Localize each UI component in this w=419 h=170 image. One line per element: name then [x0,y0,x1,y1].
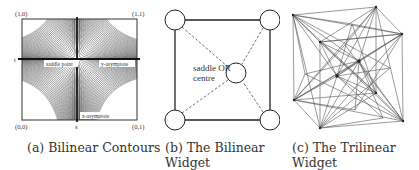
center-label-line1: saddle OR [193,63,231,73]
annotation-y-asymptote: y-asymptote [101,61,129,67]
corner-label-bottom-right: (0,1) [132,123,144,131]
caption-a: (a) Bilinear Contours [27,140,160,155]
bilinear-contour-plot: (1,0) (1,1) (0,0) (0,1) t s saddle point… [0,0,145,135]
annotation-x-asymptote: x-asymptote [82,113,110,119]
trilinear-widget-diagram [285,0,419,135]
corner-node-top-right [260,10,280,30]
corner-node-bottom-right [260,110,280,130]
corner-label-top-right: (1,1) [132,10,144,18]
corner-node-top-left [165,10,185,30]
caption-b: (b) The Bilinear Widget [165,140,265,170]
center-label-line2: centre [193,73,215,83]
corner-label-bottom-left: (0,0) [15,123,27,131]
corner-label-top-left: (1,0) [15,10,27,18]
bilinear-widget-diagram: saddle OR centre [150,0,280,135]
corner-node-bottom-left [165,110,185,130]
caption-c: (c) The Trilinear Widget [292,140,396,170]
axis-label-s: s [75,123,78,130]
annotation-saddle-point: saddle point [46,61,73,67]
panel-bilinear-contours: (1,0) (1,1) (0,0) (0,1) t s saddle point… [0,0,145,135]
panel-trilinear-widget [285,0,419,135]
axis-label-t: t [14,56,16,63]
panel-bilinear-widget: saddle OR centre [150,0,280,135]
